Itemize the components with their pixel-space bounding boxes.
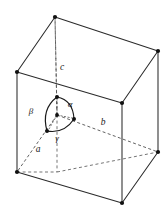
visible-edges-group bbox=[17, 17, 158, 203]
vertex-right-top-dot bbox=[156, 49, 160, 53]
edge-left-top-to-back-top bbox=[17, 17, 55, 72]
angle-label-alpha: α bbox=[68, 99, 73, 109]
labels-group: c b a α β γ bbox=[28, 62, 106, 154]
axis-label-a: a bbox=[36, 144, 41, 154]
unit-cell-figure: c b a α β γ bbox=[0, 0, 168, 217]
axis-label-c: c bbox=[60, 62, 65, 72]
axis-label-b: b bbox=[101, 117, 106, 127]
angle-label-gamma: γ bbox=[55, 133, 59, 143]
arc-node-a-dot bbox=[45, 129, 49, 133]
axis-b-line bbox=[57, 115, 158, 152]
edge-back-top-to-right-top bbox=[55, 17, 158, 51]
edge-left-bottom-to-front-bottom bbox=[17, 172, 122, 203]
arc-node-c-dot bbox=[55, 95, 59, 99]
edge-front-bottom-to-right-bottom bbox=[122, 152, 158, 203]
angle-arc-beta bbox=[45, 97, 57, 131]
unit-cell-diagram-canvas: c b a α β γ bbox=[0, 0, 168, 217]
vertex-back-top-dot bbox=[53, 15, 57, 19]
vertex-left-top-dot bbox=[15, 70, 19, 74]
vertex-right-bottom-dot bbox=[156, 150, 160, 154]
origin-lattice-point-dot bbox=[55, 113, 59, 117]
vertex-left-bottom-dot bbox=[15, 170, 19, 174]
angle-label-beta: β bbox=[28, 106, 34, 116]
arc-node-b-dot bbox=[72, 117, 76, 121]
hidden-edge-back-bottom-right bbox=[57, 152, 158, 172]
edge-front-top-to-right-top bbox=[122, 51, 158, 103]
vertex-front-top-dot bbox=[120, 101, 124, 105]
vertex-front-bottom-dot bbox=[120, 201, 124, 205]
